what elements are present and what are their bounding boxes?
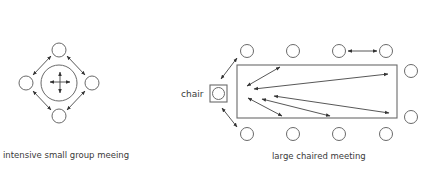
small-group-diagram xyxy=(19,43,99,123)
arrow-chair-top xyxy=(221,58,237,79)
participant-bottom xyxy=(52,109,66,123)
participant-right-1 xyxy=(405,65,418,78)
participant-top-1 xyxy=(241,45,254,58)
participant-bottom-2 xyxy=(287,128,300,141)
participant-top-4 xyxy=(380,45,393,58)
participant-bottom-4 xyxy=(380,128,393,141)
meeting-table xyxy=(237,65,397,118)
chair-circle xyxy=(213,88,225,100)
large-chaired-diagram xyxy=(210,45,418,141)
participant-top xyxy=(52,43,66,57)
participant-left xyxy=(19,76,33,90)
participant-bottom-3 xyxy=(333,128,346,141)
large-chaired-caption: large chaired meeting xyxy=(272,151,366,161)
participant-top-2 xyxy=(287,45,300,58)
chair-label: chair xyxy=(181,89,203,99)
center-table-circle xyxy=(41,65,77,101)
participant-right-2 xyxy=(405,111,418,124)
participant-right xyxy=(85,76,99,90)
arrow-chair-bottom xyxy=(222,108,237,127)
participant-bottom-1 xyxy=(241,128,254,141)
small-group-caption: intensive small group meeing xyxy=(3,150,129,160)
meeting-diagrams xyxy=(0,0,426,175)
participant-top-3 xyxy=(333,45,346,58)
